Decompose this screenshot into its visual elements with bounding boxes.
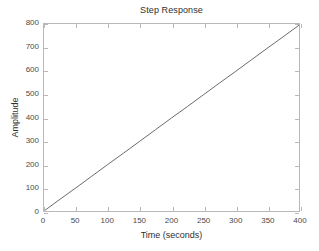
x-axis-tick-mark (76, 24, 77, 28)
y-axis-tick-mark (44, 189, 48, 190)
y-axis-tick-mark (44, 142, 48, 143)
chart-figure: Step Response 0100200300400500600700800 … (0, 0, 319, 251)
y-axis-tick-mark (44, 71, 48, 72)
y-axis-tick-mark (295, 48, 299, 49)
y-axis-tick-mark (295, 24, 299, 25)
data-line-svg (44, 24, 299, 211)
y-axis-tick-mark (44, 119, 48, 120)
x-axis-tick-mark (44, 207, 45, 211)
y-axis-tick-mark (44, 213, 48, 214)
y-axis-tick-mark (295, 213, 299, 214)
y-axis-tick-mark (44, 166, 48, 167)
x-axis-tick-mark (301, 24, 302, 28)
y-axis-tick-mark (295, 142, 299, 143)
y-axis-tick-mark (295, 95, 299, 96)
x-axis-tick-mark (76, 207, 77, 211)
y-axis-label: Amplitude (9, 23, 21, 212)
y-axis-tick-mark (295, 166, 299, 167)
x-axis-tick-label: 400 (280, 217, 319, 225)
x-axis-tick-mark (237, 207, 238, 211)
y-axis-tick-mark (295, 71, 299, 72)
x-axis-tick-mark (44, 24, 45, 28)
y-axis-tick-mark (295, 119, 299, 120)
x-axis-tick-mark (269, 207, 270, 211)
x-axis-tick-mark (140, 207, 141, 211)
y-axis-tick-mark (295, 189, 299, 190)
y-axis-tick-mark (44, 48, 48, 49)
x-axis-tick-mark (237, 24, 238, 28)
x-axis-tick-mark (173, 207, 174, 211)
plot-area (43, 23, 300, 212)
chart-title: Step Response (43, 4, 300, 16)
x-axis-tick-mark (108, 24, 109, 28)
x-axis-tick-mark (140, 24, 141, 28)
x-axis-tick-mark (269, 24, 270, 28)
x-axis-tick-mark (108, 207, 109, 211)
x-axis-tick-mark (205, 24, 206, 28)
x-axis-label: Time (seconds) (43, 230, 300, 241)
x-axis-tick-mark (173, 24, 174, 28)
step-response-line (44, 25, 299, 211)
x-axis-tick-mark (301, 207, 302, 211)
y-axis-tick-mark (44, 95, 48, 96)
x-axis-tick-mark (205, 207, 206, 211)
